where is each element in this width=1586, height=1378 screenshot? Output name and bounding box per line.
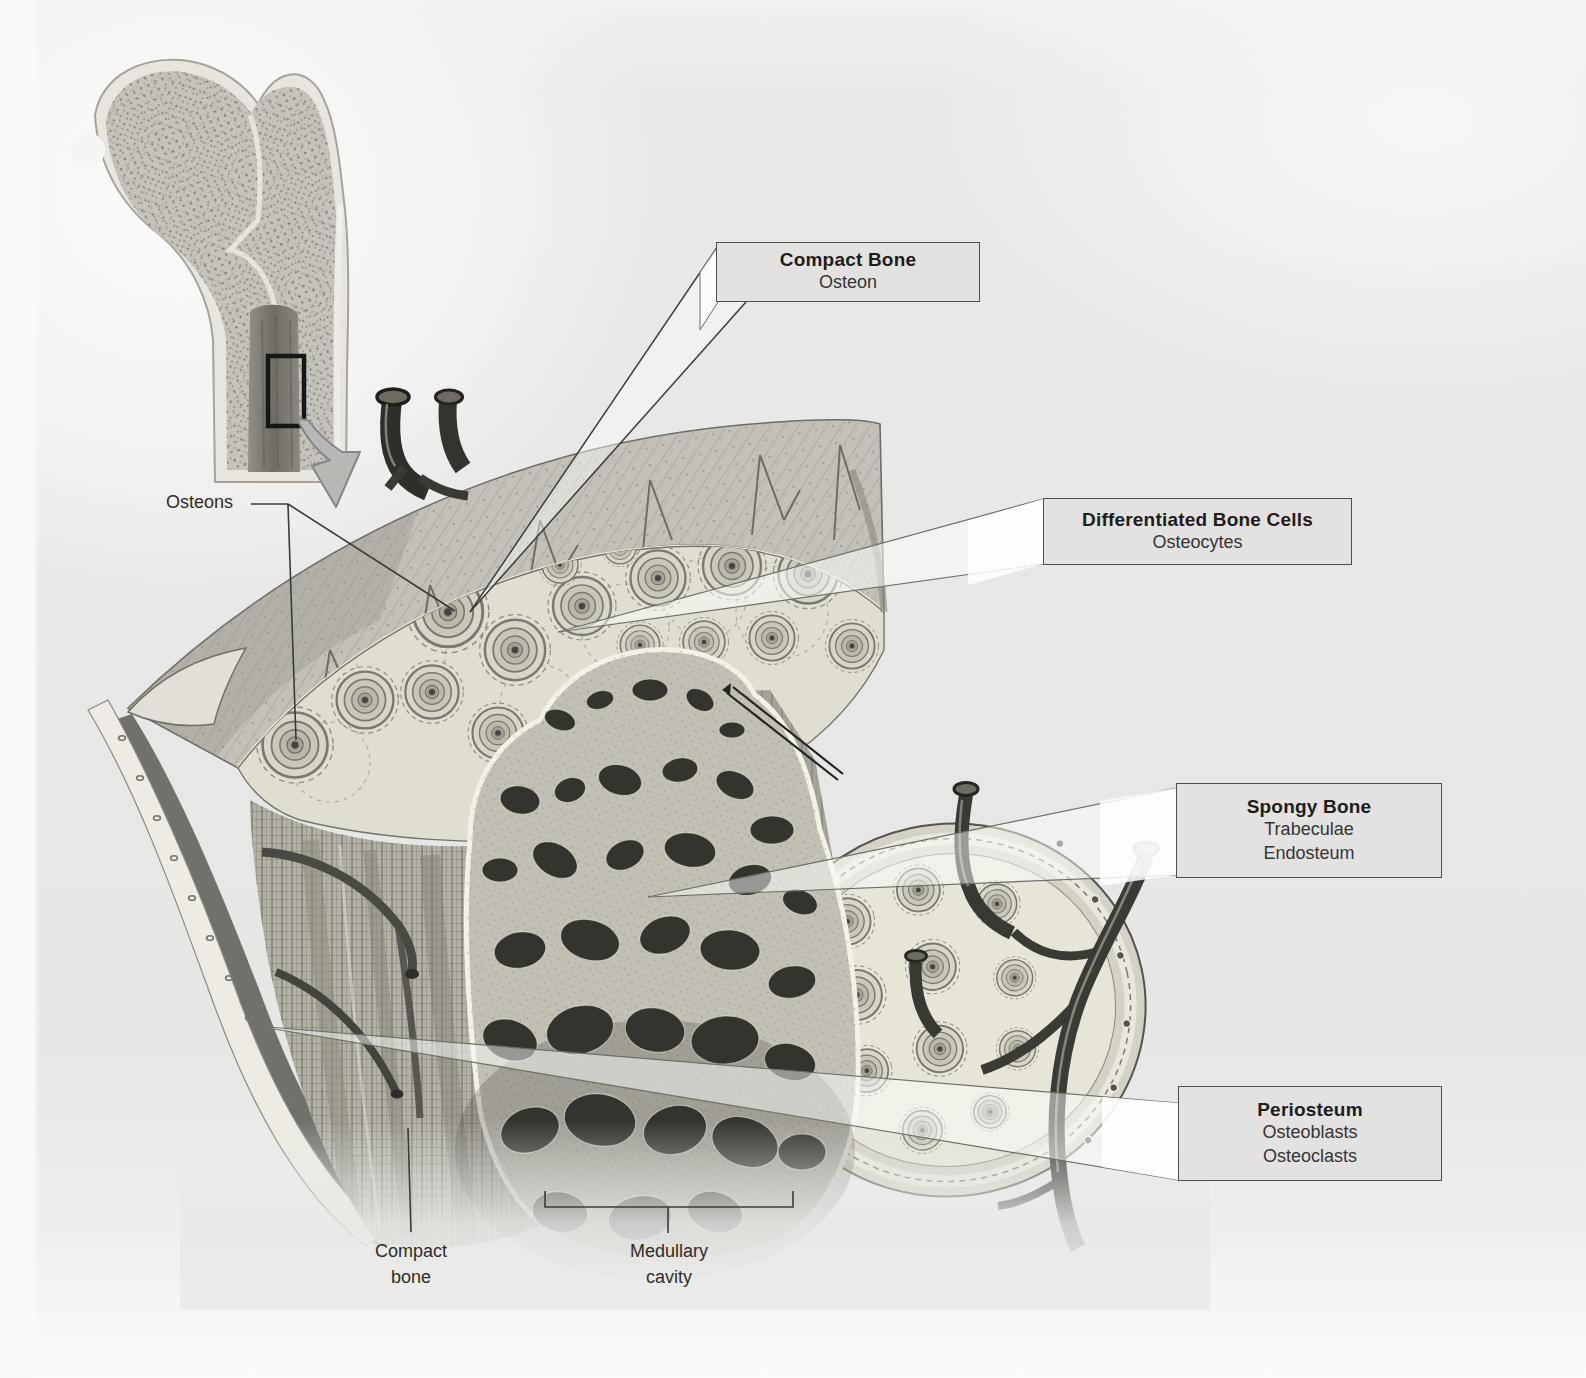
- callout-subline: Trabeculae: [1264, 818, 1353, 842]
- osteons-label: Osteons: [166, 489, 233, 515]
- callout-compact-bone: Compact Bone Osteon: [716, 242, 980, 302]
- callout-spongy-bone: Spongy Bone Trabeculae Endosteum: [1176, 783, 1442, 878]
- figure-page: Osteons Compact Bone Osteon Differentiat…: [0, 0, 1586, 1378]
- femur-inset: [53, 35, 385, 507]
- compact-bone-label: Compact bone: [336, 1238, 486, 1290]
- callout-subline: Osteoblasts: [1262, 1121, 1357, 1145]
- callout-periosteum: Periosteum Osteoblasts Osteoclasts: [1178, 1086, 1442, 1181]
- callout-subline: Osteoclasts: [1263, 1145, 1357, 1169]
- top-blood-vessels: [377, 389, 468, 496]
- callout-title: Spongy Bone: [1247, 796, 1372, 818]
- callout-subline: Endosteum: [1263, 842, 1354, 866]
- callout-subline: Osteocytes: [1152, 531, 1242, 555]
- callout-title: Differentiated Bone Cells: [1082, 509, 1313, 531]
- callout-differentiated-bone-cells: Differentiated Bone Cells Osteocytes: [1043, 498, 1352, 565]
- callout-title: Compact Bone: [780, 249, 916, 271]
- callout-subline: Osteon: [819, 271, 877, 295]
- callout-title: Periosteum: [1257, 1099, 1362, 1121]
- medullary-cavity-label: Medullary cavity: [590, 1238, 748, 1290]
- fovea-notch: [71, 133, 105, 167]
